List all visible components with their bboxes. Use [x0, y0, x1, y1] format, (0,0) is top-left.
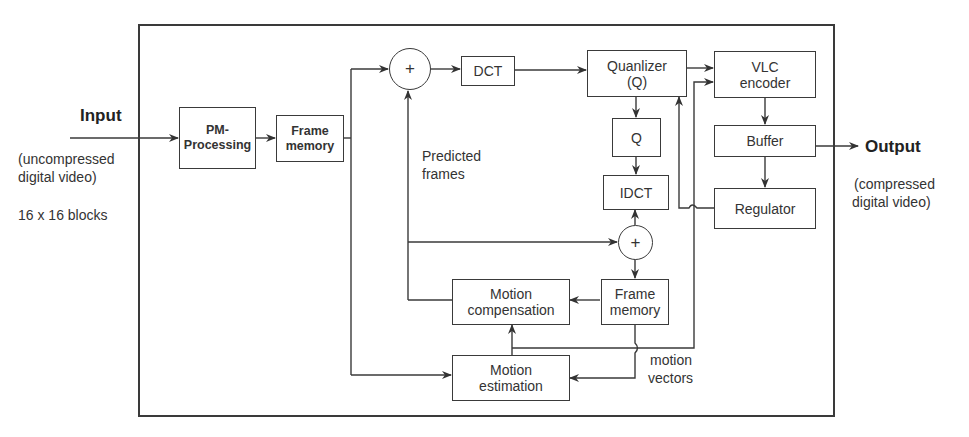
predicted-frames-label-1: Predicted — [422, 148, 481, 165]
motion-compensation-block: Motion compensation — [452, 279, 570, 325]
frame-memory-input-line1: Frame — [291, 124, 329, 139]
buffer-block: Buffer — [714, 125, 816, 157]
output-desc-2: digital video) — [852, 194, 931, 211]
output-title: Output — [865, 138, 921, 155]
motion-estimation-block: Motion estimation — [452, 355, 570, 401]
motion-estimation-line2: estimation — [479, 378, 543, 394]
motion-vectors-label-2: vectors — [648, 370, 693, 387]
dct-block: DCT — [461, 56, 515, 86]
pm-processing-line2: Processing — [184, 138, 251, 153]
input-desc-2: digital video) — [18, 169, 97, 186]
vlc-encoder-line2: encoder — [740, 75, 791, 91]
pm-processing-block: PM- Processing — [179, 107, 256, 169]
motion-estimation-line1: Motion — [490, 362, 532, 378]
input-title: Input — [80, 107, 122, 124]
motion-vectors-label-1: motion — [650, 352, 692, 369]
frame-memory-loop-line1: Frame — [615, 286, 655, 302]
quantizer-block: Quanlizer (Q) — [587, 50, 687, 97]
regulator-block: Regulator — [714, 188, 816, 229]
motion-compensation-line2: compensation — [467, 302, 554, 318]
summing-junction-bottom: + — [618, 225, 653, 260]
frame-memory-input-block: Frame memory — [276, 115, 344, 162]
quantizer-line2: (Q) — [627, 74, 647, 90]
vlc-encoder-block: VLC encoder — [714, 51, 816, 98]
quantizer-line1: Quanlizer — [607, 58, 667, 74]
summing-junction-top: + — [389, 48, 431, 90]
pm-processing-line1: PM- — [206, 123, 229, 138]
frame-memory-input-line2: memory — [286, 139, 335, 154]
inverse-q-block: Q — [612, 118, 661, 157]
idct-block: IDCT — [603, 175, 669, 210]
frame-memory-loop-block: Frame memory — [601, 279, 669, 325]
vlc-encoder-line1: VLC — [751, 59, 778, 75]
frame-memory-loop-line2: memory — [610, 302, 661, 318]
motion-compensation-line1: Motion — [490, 286, 532, 302]
predicted-frames-label-2: frames — [422, 166, 465, 183]
input-block-size: 16 x 16 blocks — [18, 207, 108, 224]
output-desc-1: (compressed — [854, 176, 935, 193]
input-desc-1: (uncompressed — [18, 151, 115, 168]
